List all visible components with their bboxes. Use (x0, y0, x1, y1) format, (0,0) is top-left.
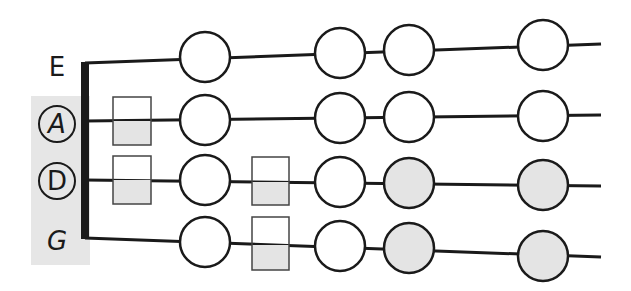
fingerboard-diagram: E A D G (0, 0, 631, 291)
note-circle-g-3-filled (384, 223, 434, 273)
string-label-a: A (46, 109, 66, 139)
note-circle-a-1 (180, 95, 230, 145)
square-note-d-1 (113, 156, 151, 204)
note-circle-g-2 (315, 221, 365, 271)
note-circle-d-2 (315, 157, 365, 207)
note-circle-a-3 (384, 92, 434, 142)
string-label-g: G (47, 226, 67, 256)
string-label-d: D (47, 166, 67, 196)
note-circle-a-2 (315, 93, 365, 143)
note-circle-d-3-filled (384, 158, 434, 208)
note-circle-d-1 (180, 155, 230, 205)
note-circle-e-4 (518, 20, 568, 70)
nut-bar (81, 62, 89, 239)
note-circle-g-1 (180, 217, 230, 267)
note-circle-a-4 (518, 91, 568, 141)
note-circle-e-3 (384, 25, 434, 75)
note-circle-g-4-filled (518, 231, 568, 281)
square-note-a-1 (113, 97, 151, 145)
note-circle-e-2 (315, 28, 365, 78)
note-circle-d-4-filled (518, 160, 568, 210)
string-label-e: E (49, 52, 65, 82)
note-circle-e-1 (180, 32, 230, 82)
